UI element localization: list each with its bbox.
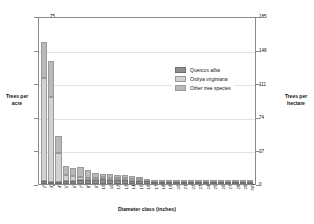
legend-item-quercus-alba: Quercus alba	[175, 66, 231, 74]
bar-column	[180, 18, 187, 184]
bar-column	[217, 18, 224, 184]
bar-series-group	[39, 18, 255, 184]
legend-swatch-ostrya-virginiana	[175, 76, 186, 82]
bar-column	[143, 18, 150, 184]
x-axis-tick-label: 30+	[251, 183, 256, 190]
bar-segment	[85, 180, 91, 184]
x-axis-tick: 25	[210, 186, 217, 205]
legend-label-other-tree-species: Other tree species	[190, 85, 231, 91]
bar-segment	[48, 61, 54, 97]
y-axis-left-title: Trees per acre	[3, 93, 31, 106]
y-axis-right-tick-mark	[256, 84, 260, 85]
bar-segment	[41, 78, 47, 181]
legend-swatch-quercus-alba	[175, 67, 186, 73]
y-axis-right-tick-label: 148	[259, 48, 285, 53]
bar-column	[232, 18, 239, 184]
x-axis-tick: 27	[225, 186, 232, 205]
bar-column	[40, 18, 47, 184]
legend-swatch-other-tree-species	[175, 85, 186, 91]
legend-item-other-tree-species: Other tree species	[175, 84, 231, 92]
x-axis-tick: 3	[46, 186, 53, 205]
bar-segment	[55, 136, 61, 153]
bar-column	[188, 18, 195, 184]
bar-segment	[77, 167, 83, 177]
bar-column	[99, 18, 106, 184]
bar-column	[55, 18, 62, 184]
x-axis-tick: 13	[121, 186, 128, 205]
x-axis-tick: 28	[233, 186, 240, 205]
y-axis-right-tick-mark	[256, 151, 260, 152]
x-axis-tick: 17	[151, 186, 158, 205]
bar-segment	[70, 181, 76, 184]
bar-segment	[63, 181, 69, 184]
plot-area: Quercus alba Ostrya virginiana Other tre…	[38, 17, 256, 185]
bar-column	[70, 18, 77, 184]
chart-legend: Quercus alba Ostrya virginiana Other tre…	[172, 64, 234, 95]
x-axis-tick: 30+	[248, 186, 255, 205]
y-axis-right-tick-label: 111	[259, 82, 285, 87]
bar-segment	[70, 168, 76, 176]
x-axis-tick: 7	[76, 186, 83, 205]
x-axis-tick: 18	[158, 186, 165, 205]
y-axis-right-tick-label: 37	[259, 149, 285, 154]
x-axis-tick: 8	[84, 186, 91, 205]
bar-segment	[85, 170, 91, 178]
bar-segment	[55, 153, 61, 182]
bar-column	[158, 18, 165, 184]
x-axis-tick: 20	[173, 186, 180, 205]
bar-segment	[63, 175, 69, 182]
bar-column	[77, 18, 84, 184]
bar-column	[239, 18, 246, 184]
bar-segment	[41, 42, 47, 78]
x-axis-tick: 4	[54, 186, 61, 205]
y-axis-right-tick-mark	[256, 17, 260, 18]
bar-column	[136, 18, 143, 184]
x-axis-tick: 24	[203, 186, 210, 205]
x-axis-tick: 2	[39, 186, 46, 205]
legend-label-quercus-alba: Quercus alba	[190, 67, 220, 73]
bar-column	[62, 18, 69, 184]
bar-column	[114, 18, 121, 184]
y-axis-right-tick-mark	[256, 118, 260, 119]
bar-segment	[48, 97, 54, 182]
x-axis-tick: 11	[106, 186, 113, 205]
x-axis-tick: 26	[218, 186, 225, 205]
y-axis-right-tick-mark	[256, 185, 260, 186]
bar-column	[129, 18, 136, 184]
x-axis-tick: 15	[136, 186, 143, 205]
bar-segment	[77, 180, 83, 184]
bar-column	[121, 18, 128, 184]
bar-column	[224, 18, 231, 184]
x-axis-tick: 12	[114, 186, 121, 205]
x-axis-tick: 6	[69, 186, 76, 205]
bar-column	[151, 18, 158, 184]
x-axis-tick: 23	[196, 186, 203, 205]
y-axis-right-title: Trees per hectare	[281, 93, 311, 106]
x-axis-tick: 22	[188, 186, 195, 205]
y-axis-right-tick-label: 74	[259, 115, 285, 120]
bar-column	[202, 18, 209, 184]
bar-column	[106, 18, 113, 184]
bar-column	[84, 18, 91, 184]
x-axis-tick: 14	[128, 186, 135, 205]
x-axis-tick: 16	[143, 186, 150, 205]
x-axis-tick-labels: 2345678910111213141516171819202122232425…	[38, 186, 256, 205]
x-axis-tick: 5	[61, 186, 68, 205]
legend-label-ostrya-virginiana: Ostrya virginiana	[190, 76, 228, 82]
y-axis-right-tick-mark	[256, 51, 260, 52]
y-axis-right-tick-label: 185	[259, 14, 285, 19]
bar-column	[195, 18, 202, 184]
legend-item-ostrya-virginiana: Ostrya virginiana	[175, 75, 231, 83]
bar-column	[173, 18, 180, 184]
x-axis-tick: 21	[181, 186, 188, 205]
x-axis-tick: 9	[91, 186, 98, 205]
bar-column	[210, 18, 217, 184]
bar-column	[165, 18, 172, 184]
y-axis-right-tick-label: 0	[259, 182, 285, 187]
x-axis-tick: 10	[99, 186, 106, 205]
x-axis-tick: 19	[166, 186, 173, 205]
bar-column	[247, 18, 254, 184]
x-axis-title: Diameter class (inches)	[38, 206, 256, 212]
bar-column	[92, 18, 99, 184]
bar-column	[47, 18, 54, 184]
